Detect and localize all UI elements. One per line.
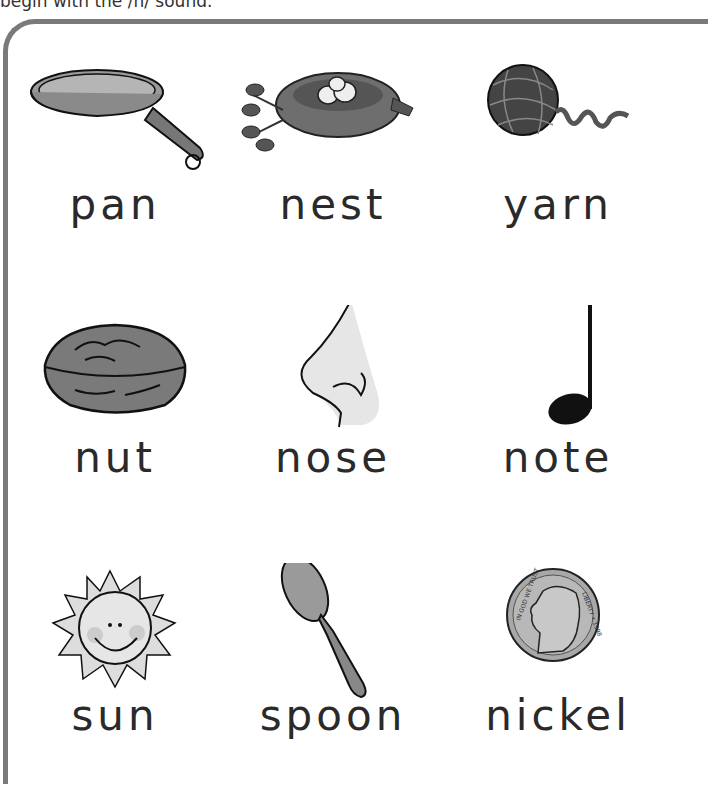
frying-pan-icon	[15, 50, 215, 200]
item-nest[interactable]: nest	[233, 50, 433, 290]
bird-nest-icon	[233, 50, 433, 200]
item-pan[interactable]: pan	[15, 50, 215, 290]
word-label: spoon	[233, 691, 433, 740]
instruction-text: begin with the /n/ sound.	[0, 0, 212, 11]
word-label: yarn	[458, 180, 658, 229]
item-note[interactable]: note	[458, 305, 658, 545]
item-nut[interactable]: nut	[15, 305, 215, 545]
word-label: pan	[15, 180, 215, 229]
item-spoon[interactable]: spoon	[233, 563, 433, 788]
yarn-ball-icon	[458, 50, 658, 200]
item-nose[interactable]: nose	[233, 305, 433, 545]
word-label: nose	[233, 433, 433, 482]
item-sun[interactable]: sun	[15, 563, 215, 788]
word-label: nut	[15, 433, 215, 482]
item-nickel[interactable]: IN GOD WE TRUST LIBERTY • 1998 nickel	[458, 563, 658, 788]
word-label: sun	[15, 691, 215, 740]
word-label: note	[458, 433, 658, 482]
word-label: nest	[233, 180, 433, 229]
item-yarn[interactable]: yarn	[458, 50, 658, 290]
word-label: nickel	[458, 691, 658, 740]
